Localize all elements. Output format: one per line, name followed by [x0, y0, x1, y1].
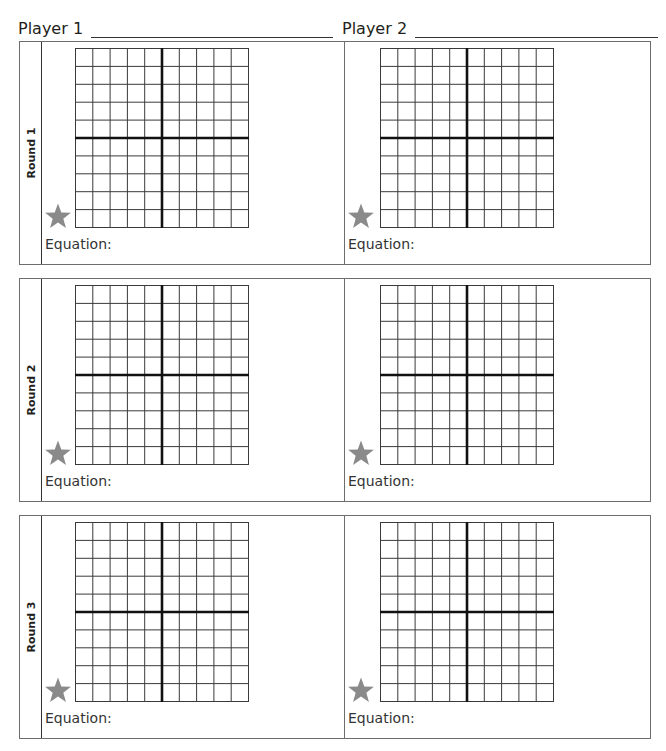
star-icon [44, 202, 72, 230]
player-2-round-3-cell: Equation: [344, 516, 650, 738]
round-label: Round 3 [24, 601, 37, 652]
equation-label: Equation: [45, 473, 112, 489]
equation-label: Equation: [348, 473, 415, 489]
star-shape [348, 441, 374, 465]
coordinate-grid[interactable] [75, 285, 249, 465]
grid-svg [75, 522, 249, 702]
round-tab: Round 2 [20, 279, 42, 501]
player-2-label: Player 2 [342, 20, 407, 38]
player-1-header: Player 1 [18, 14, 333, 38]
star-icon [44, 676, 72, 704]
player-1-name-field[interactable] [91, 21, 333, 38]
star-shape [348, 678, 374, 702]
round-tab: Round 1 [20, 42, 42, 264]
grid-svg [380, 285, 554, 465]
star-shape [45, 204, 71, 228]
star-icon [347, 676, 375, 704]
coordinate-grid[interactable] [380, 48, 554, 228]
grid-svg [380, 522, 554, 702]
player-2-round-2-cell: Equation: [344, 279, 650, 501]
grid-svg [75, 48, 249, 228]
grid-svg [75, 285, 249, 465]
coordinate-grid[interactable] [75, 522, 249, 702]
coordinate-grid[interactable] [75, 48, 249, 228]
equation-label: Equation: [348, 236, 415, 252]
star-icon [347, 439, 375, 467]
star-shape [348, 204, 374, 228]
star-shape [45, 678, 71, 702]
player-1-round-1-cell: Equation: [41, 42, 345, 264]
star-icon [44, 439, 72, 467]
round-tab: Round 3 [20, 516, 42, 738]
coordinate-grid[interactable] [380, 285, 554, 465]
round-label: Round 2 [24, 364, 37, 415]
round-3-box: Round 3 Equation: Equation: [19, 515, 651, 739]
grid-svg [380, 48, 554, 228]
player-1-round-3-cell: Equation: [41, 516, 345, 738]
equation-label: Equation: [45, 236, 112, 252]
player-2-header: Player 2 [342, 14, 658, 38]
star-shape [45, 441, 71, 465]
coordinate-grid[interactable] [380, 522, 554, 702]
round-label: Round 1 [24, 127, 37, 178]
player-2-name-field[interactable] [415, 21, 658, 38]
equation-label: Equation: [45, 710, 112, 726]
round-1-box: Round 1 Equation: Equation: [19, 41, 651, 265]
player-1-round-2-cell: Equation: [41, 279, 345, 501]
equation-label: Equation: [348, 710, 415, 726]
star-icon [347, 202, 375, 230]
player-1-label: Player 1 [18, 20, 83, 38]
player-2-round-1-cell: Equation: [344, 42, 650, 264]
round-2-box: Round 2 Equation: Equation: [19, 278, 651, 502]
